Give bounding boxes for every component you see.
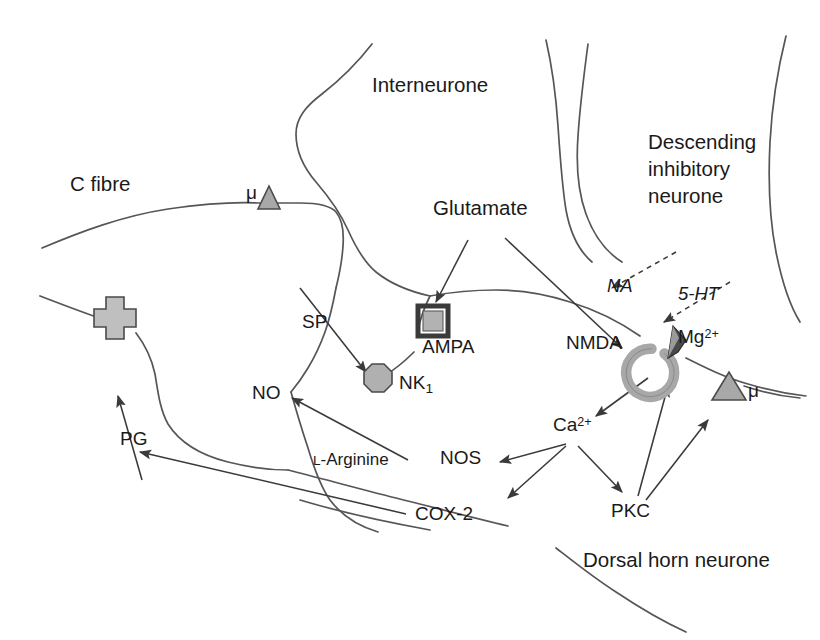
label-descending-neurone-line2: inhibitory bbox=[648, 157, 730, 181]
label-magnesium-base: Mg bbox=[678, 326, 704, 347]
label-nitric-oxide: NO bbox=[252, 382, 281, 404]
label-prostaglandin: PG bbox=[120, 428, 147, 450]
label-l-arginine: L-Arginine bbox=[313, 450, 389, 470]
label-magnesium: Mg2+ bbox=[678, 326, 719, 348]
descending-neurone-left-outline bbox=[577, 44, 622, 262]
descending-neurone-right-outline bbox=[769, 36, 800, 322]
label-nos: NOS bbox=[440, 447, 481, 469]
label-nk1-base: NK bbox=[399, 372, 425, 393]
label-magnesium-superscript: 2+ bbox=[704, 327, 718, 341]
dorsal-horn-upper-membrane bbox=[430, 290, 640, 336]
label-calcium-base: Ca bbox=[553, 414, 577, 435]
diagram-canvas: C fibre Interneurone Descending inhibito… bbox=[0, 0, 820, 640]
label-descending-neurone-line1: Descending bbox=[648, 130, 756, 154]
c-fibre-terminal-membrane bbox=[291, 288, 336, 392]
arrow-calcium-to-cox2 bbox=[508, 446, 566, 498]
label-nmda: NMDA bbox=[566, 332, 622, 354]
label-pkc: PKC bbox=[611, 500, 650, 522]
mu-label-right: μ bbox=[748, 380, 759, 402]
internal-fibre-lower bbox=[288, 470, 508, 526]
label-interneurone: Interneurone bbox=[372, 73, 488, 97]
mu-label-left: μ bbox=[246, 182, 257, 204]
label-calcium-superscript: 2+ bbox=[577, 415, 591, 429]
label-glutamate: Glutamate bbox=[433, 196, 528, 220]
label-cox2: COX-2 bbox=[415, 503, 473, 525]
dorsal-horn-upper-membrane-right bbox=[686, 358, 806, 396]
nmda-receptor[interactable] bbox=[626, 349, 674, 397]
prostaglandin-receptor[interactable] bbox=[94, 297, 136, 339]
mu-opioid-receptor-right[interactable] bbox=[712, 372, 746, 400]
label-calcium: Ca2+ bbox=[553, 414, 592, 436]
arrow-calcium-to-pkc bbox=[578, 446, 622, 492]
label-dorsal-horn-neurone: Dorsal horn neurone bbox=[583, 548, 770, 572]
label-l-arginine-rest: -Arginine bbox=[321, 450, 389, 469]
ampa-receptor[interactable] bbox=[418, 306, 448, 336]
mu-opioid-receptor-left[interactable] bbox=[258, 186, 280, 209]
label-nk1-receptor: NK1 bbox=[399, 372, 433, 397]
c-fibre-upper-membrane bbox=[42, 203, 343, 288]
label-c-fibre: C fibre bbox=[70, 172, 130, 196]
label-ampa: AMPA bbox=[422, 336, 474, 358]
label-descending-neurone-line3: neurone bbox=[648, 184, 723, 208]
label-substance-p: SP bbox=[302, 311, 327, 333]
arrow-calcium-to-nos bbox=[500, 444, 566, 462]
label-l-arginine-prefix: L bbox=[313, 453, 321, 468]
nk1-receptor[interactable] bbox=[364, 364, 392, 392]
label-serotonin: 5-HT bbox=[678, 283, 719, 305]
label-nk1-subscript: 1 bbox=[425, 381, 433, 396]
label-noradrenaline: NA bbox=[607, 275, 633, 297]
arrow-pkc-to-nmda bbox=[638, 386, 668, 496]
